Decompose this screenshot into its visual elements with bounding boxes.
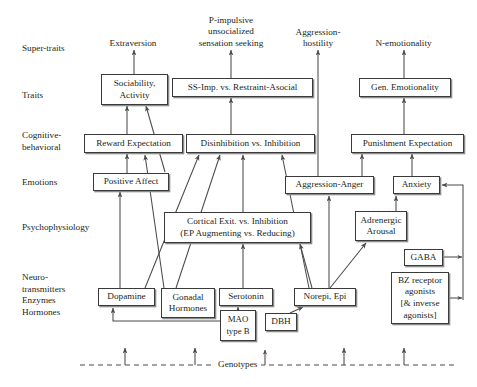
node-ss-imp-vs-restraint-asocial[interactable]: SS-Imp. vs. Restraint-Asocial xyxy=(172,78,313,97)
diagram-canvas: Super-traits Traits Cognitive- behaviora… xyxy=(0,0,477,387)
edge-norepi-to-adrenergic xyxy=(330,243,366,288)
node-cortical-excitation-vs-inhibition[interactable]: Cortical Exit. vs. Inhibition (EP Augmen… xyxy=(164,212,311,243)
super-trait-n-emotionality: N-emotionality xyxy=(351,38,456,49)
node-disinhibition-vs-inhibition[interactable]: Disinhibition vs. Inhibition xyxy=(186,134,315,153)
super-trait-p-impulsive: P-impulsive unsocialized sensation seeki… xyxy=(176,15,286,49)
node-mao-type-b[interactable]: MAO type B xyxy=(220,310,256,341)
row-label-psychophysiology: Psychophysiology xyxy=(22,222,89,234)
node-positive-affect[interactable]: Positive Affect xyxy=(93,173,169,191)
super-trait-extraversion: Extraversion xyxy=(83,38,183,49)
edge-norepi-to-cortical xyxy=(300,244,312,288)
super-trait-aggression-hostility: Aggression- hostility xyxy=(281,27,355,50)
row-label-super-traits: Super-traits xyxy=(22,43,65,55)
node-aggression-anger[interactable]: Aggression-Anger xyxy=(285,176,374,194)
row-label-neurotransmitters: Neuro- transmitters Enzymes Hormones xyxy=(22,272,65,318)
node-reward-expectation[interactable]: Reward Expectation xyxy=(84,134,183,153)
node-gen-emotionality[interactable]: Gen. Emotionality xyxy=(359,78,451,97)
node-anxiety[interactable]: Anxiety xyxy=(393,176,440,194)
node-norepi-epi[interactable]: Norepi, Epi xyxy=(294,288,356,306)
node-dopamine[interactable]: Dopamine xyxy=(98,288,155,306)
node-adrenergic-arousal[interactable]: Adrenergic Arousal xyxy=(355,211,407,241)
node-punishment-expectation[interactable]: Punishment Expectation xyxy=(351,134,464,153)
row-label-emotions: Emotions xyxy=(22,177,57,189)
node-gonadal-hormones[interactable]: Gonadal Hormones xyxy=(161,288,215,318)
node-gaba[interactable]: GABA xyxy=(404,249,443,266)
row-label-cognitive-behavioral: Cognitive- behavioral xyxy=(22,130,61,153)
row-label-traits: Traits xyxy=(22,90,43,102)
node-serotonin[interactable]: Serotonin xyxy=(219,288,273,306)
node-sociability-activity[interactable]: Sociability, Activity xyxy=(101,74,168,105)
node-dbh[interactable]: DBH xyxy=(265,313,297,331)
node-bz-receptor-agonists[interactable]: BZ receptor agonists [& inverse agonists… xyxy=(391,272,449,324)
genotypes-label: Genotypes xyxy=(214,359,261,369)
